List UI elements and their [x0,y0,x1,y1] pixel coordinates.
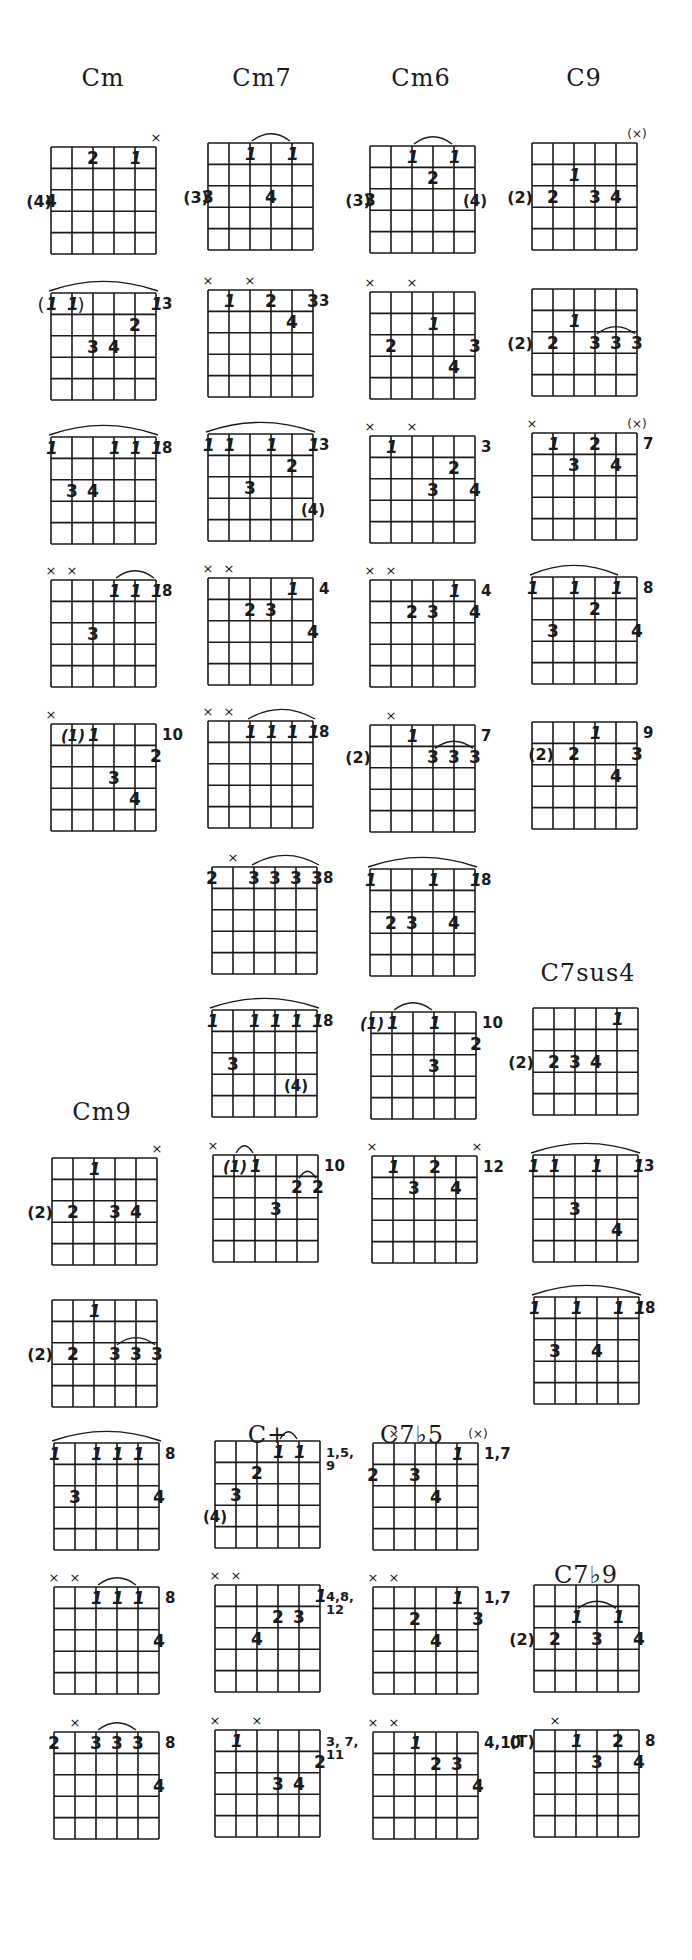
chord-diagram-c9: 1112348 [502,551,681,694]
finger-marker: 2 [547,333,559,353]
optional-finger-marker: (4) [203,1508,227,1526]
muted-string-icon: × [367,1139,378,1154]
finger-marker: 4 [633,1752,645,1772]
finger-marker: 1 [112,1444,124,1464]
finger-marker: 3 [151,1344,163,1364]
finger-marker: 1 [428,314,440,334]
fret-position-label: 3 [162,295,172,313]
fret-position-label: 8 [165,1589,175,1607]
chord-diagram-c7sus4: 1111348 [504,1271,683,1414]
chord-diagram-c9: ×(×)12347 [502,407,681,550]
fret-position-label: 8 [165,1734,175,1752]
chord-diagram-c9: (×)1(2)234 [502,117,681,260]
muted-string-icon: × [208,1138,219,1153]
barre-arc [49,281,158,291]
optional-finger-marker: (1) [61,727,85,745]
finger-marker: 4 [590,1052,602,1072]
finger-marker: 3 [290,868,302,888]
finger-marker: 1 [428,870,440,890]
muted-string-icon: × [228,850,239,865]
finger-marker: 2 [406,602,418,622]
finger-marker: 2 [272,1607,284,1627]
finger-marker: 3 [87,337,99,357]
muted-string-icon: × [389,1570,400,1585]
fret-position-label: 8 [165,1445,175,1463]
finger-marker: 3 [448,747,460,767]
finger-marker: 2 [251,1463,263,1483]
finger-marker: 3 [248,868,260,888]
chord-diagram-c7b9: ×(T)12348 [504,1704,683,1847]
finger-marker: 1 [571,1731,583,1751]
chord-diagram-cm: ×(1)123410 [21,698,200,841]
finger-marker: 4 [265,187,277,207]
muted-string-icon: × [49,1570,60,1585]
chord-diagram-c7sus4: 1111343 [503,1129,682,1272]
finger-marker: 4 [450,1178,462,1198]
fret-position-label: 4 [481,582,491,600]
finger-marker: 2 [409,1609,421,1629]
chord-diagram-c7sus4: 1(2)234 [503,982,682,1125]
finger-marker: 1 [91,1588,103,1608]
chord-diagram-cm7: ××12344 [178,552,357,695]
finger-marker: 3 [272,1774,284,1794]
chord-diagram-cm9: 1(2)2333 [22,1274,201,1417]
finger-marker: 3 [87,624,99,644]
chord-diagram-cm6: 1112348 [340,843,519,986]
muted-string-icon: × [407,419,418,434]
finger-marker: 1 [203,435,215,455]
barre-arc [49,425,158,435]
finger-marker: 1 [133,1444,145,1464]
finger-marker: 4 [633,1629,645,1649]
fret-position-label: 11 [326,1747,344,1762]
muted-string-icon: × [224,561,235,576]
finger-marker: 3 [293,1607,305,1627]
optional-finger-marker: (2) [507,334,533,353]
finger-marker: 3 [427,480,439,500]
finger-marker: 3 [244,478,256,498]
finger-marker: 3 [66,481,78,501]
finger-marker: 2 [612,1731,624,1751]
finger-marker: 1 [590,723,602,743]
muted-string-icon: × [46,563,57,578]
fret-position-label: 9 [326,1458,335,1473]
finger-marker: 2 [265,291,277,311]
finger-marker: 2 [312,1177,324,1197]
finger-marker: 3 [591,1629,603,1649]
fret-position-label: 3 [644,1157,654,1175]
finger-marker: 3 [409,1465,421,1485]
finger-marker: 1 [388,1157,400,1177]
finger-marker: 1 [529,1298,541,1318]
finger-marker: 4 [430,1631,442,1651]
finger-marker: 3 [307,291,319,311]
muted-string-icon: × [224,704,235,719]
finger-marker: 1 [569,311,581,331]
barre-arc [98,1723,136,1730]
fret-position-label: 4 [319,580,329,598]
finger-marker: 2 [129,315,141,335]
fret-position-label: 3 [319,292,329,310]
chord-diagram-c7b5: ×(×)12341,7 [343,1417,522,1560]
finger-marker: 4 [87,481,99,501]
muted-string-icon: × [152,1141,163,1156]
muted-string-icon: × [368,1570,379,1585]
fret-position-label: 12 [483,1158,504,1176]
chord-diagram-cm7: ×(1)122310 [183,1129,362,1272]
barre-arc [414,137,452,144]
finger-marker: 4 [610,187,622,207]
finger-marker: 3 [230,1485,242,1505]
barre-arc [236,1146,253,1153]
finger-marker: 4 [472,1776,484,1796]
finger-marker: 1 [231,1731,243,1751]
finger-marker: 1 [449,147,461,167]
chord-title-cm7: Cm7 [232,64,291,92]
finger-marker: 1 [250,1156,262,1176]
finger-marker: 4 [108,337,120,357]
finger-marker: 3 [451,1754,463,1774]
finger-marker: 1 [548,434,560,454]
finger-marker: 2 [429,1157,441,1177]
finger-marker: 3 [265,600,277,620]
chord-title-cm6: Cm6 [391,64,450,92]
finger-marker: 1 [429,1013,441,1033]
svg-text:(: ( [37,294,44,315]
fret-position-label: 1,7 [484,1445,511,1463]
